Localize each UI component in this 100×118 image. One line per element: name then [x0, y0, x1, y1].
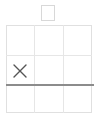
turn-indicator-box [41, 5, 55, 21]
cell-r1c3[interactable] [64, 25, 92, 54]
cell-r2c3[interactable] [64, 56, 92, 85]
cell-r2c1[interactable] [6, 56, 34, 85]
cell-r1c1[interactable] [6, 25, 34, 54]
cell-r3c1[interactable] [6, 86, 34, 115]
cell-r3c2[interactable] [35, 86, 63, 115]
cell-r2c2[interactable] [35, 56, 63, 85]
x-mark-icon [12, 63, 28, 79]
cell-r3c3[interactable] [64, 86, 92, 115]
cell-r1c2[interactable] [35, 25, 63, 54]
